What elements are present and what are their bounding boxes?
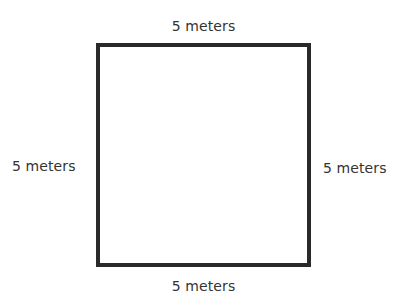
bottom-side-label: 5 meters <box>0 278 407 294</box>
left-side-label: 5 meters <box>12 158 76 174</box>
top-side-label: 5 meters <box>0 18 407 34</box>
square-shape <box>96 43 311 267</box>
right-side-label: 5 meters <box>323 160 387 176</box>
